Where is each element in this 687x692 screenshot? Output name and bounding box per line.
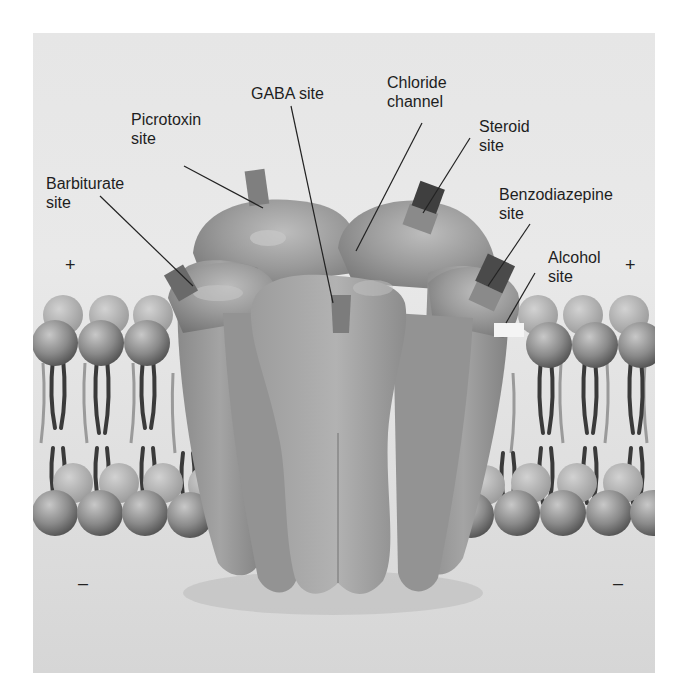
alcohol-site-label: Alcohol site [548,248,600,286]
receptor-diagram [33,33,655,673]
negative-charge-right: – [613,573,623,594]
negative-charge-left: – [78,573,88,594]
diagram-panel: Picrotoxin site GABA site Chloride chann… [33,33,655,673]
positive-charge-right: + [625,255,636,276]
benzodiazepine-site-label: Benzodiazepine site [499,185,613,223]
barbiturate-site-label: Barbiturate site [46,174,124,212]
steroid-site-label: Steroid site [479,117,530,155]
positive-charge-left: + [65,255,76,276]
gaba-receptor [168,200,519,594]
picrotoxin-site-label: Picrotoxin site [131,110,201,148]
chloride-channel-label: Chloride channel [387,73,447,111]
gaba-site-label: GABA site [251,84,324,103]
gaba-site-marker [331,295,351,333]
alcohol-site-marker [494,323,524,337]
